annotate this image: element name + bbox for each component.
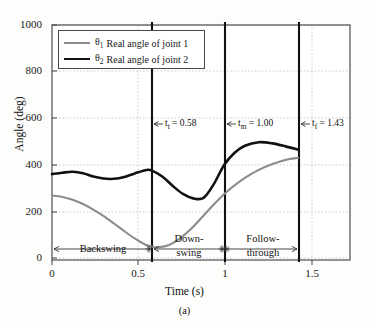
- y-axis-label: Angle (deg): [13, 79, 25, 169]
- legend-item-theta2: θ2 Real angle of joint 2: [64, 51, 188, 67]
- legend-symbol-theta2: θ2: [95, 52, 104, 66]
- y-tick-600: 600: [8, 111, 42, 123]
- x-tick-0: 0: [37, 267, 67, 279]
- y-tick-200: 200: [8, 205, 42, 217]
- phase-label-follow-through: Follow- through: [228, 234, 298, 258]
- y-tick-800: 800: [8, 64, 42, 76]
- legend-sub-theta2: 2: [100, 57, 104, 66]
- y-tick-1000: 1000: [8, 18, 42, 30]
- phase-label-follow-through-line2: through: [228, 248, 298, 259]
- phase-label-follow-through-line1: Follow-: [228, 234, 298, 245]
- marker-label-t-final: tf = 1.43: [312, 118, 344, 131]
- marker-value-t-top: = 0.58: [170, 118, 197, 128]
- y-tick-0: 0: [8, 251, 42, 263]
- marker-label-t-top: tt = 0.58: [165, 118, 196, 131]
- marker-value-t-final: = 1.43: [317, 118, 344, 128]
- marker-value-t-mid: = 1.00: [246, 118, 273, 128]
- x-axis-label: Time (s): [0, 285, 369, 297]
- y-tick-400: 400: [8, 158, 42, 170]
- phase-label-backswing: Backswing: [62, 244, 144, 255]
- legend-label-theta1: Real angle of joint 1: [107, 38, 189, 49]
- marker-label-t-mid: tm = 1.00: [238, 118, 273, 131]
- legend: θ1 Real angle of joint 1 θ2 Real angle o…: [58, 30, 205, 69]
- legend-sub-theta1: 1: [100, 41, 104, 50]
- legend-item-theta1: θ1 Real angle of joint 1: [64, 35, 188, 51]
- figure-caption: (a): [0, 305, 369, 316]
- legend-swatch-theta1: [64, 42, 90, 44]
- legend-symbol-theta1: θ1: [95, 36, 104, 50]
- legend-swatch-theta2: [64, 58, 90, 60]
- x-axis-ticks: [52, 260, 312, 265]
- legend-label-theta2: Real angle of joint 2: [107, 54, 189, 65]
- phase-label-downswing-line2: swing: [156, 248, 222, 259]
- phase-label-downswing-line1: Down-: [156, 234, 222, 245]
- x-tick-0-5: 0.5: [123, 267, 153, 279]
- phase-label-downswing: Down- swing: [156, 234, 222, 258]
- phase-label-backswing-line1: Backswing: [62, 244, 144, 255]
- x-tick-1: 1: [210, 267, 240, 279]
- x-tick-1-5: 1.5: [297, 267, 327, 279]
